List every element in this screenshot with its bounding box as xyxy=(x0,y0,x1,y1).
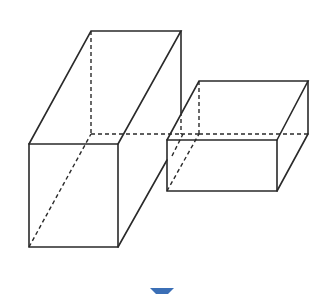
small-box-hidden-oblique xyxy=(167,134,199,191)
big-box-top-face xyxy=(29,31,181,144)
small-box-front-face xyxy=(167,140,277,191)
small-box-bottom-right-edge xyxy=(277,134,308,191)
marker-triangle-icon xyxy=(150,288,174,294)
prism-diagram xyxy=(0,0,335,294)
small-box-top-face xyxy=(167,81,308,140)
big-box-bottom-right-edge xyxy=(118,160,167,247)
small-box-hidden-oblique-2 xyxy=(172,134,183,156)
big-box-hidden-oblique xyxy=(29,134,91,247)
big-box-front-face xyxy=(29,144,118,247)
small-box xyxy=(167,81,308,191)
big-box xyxy=(29,31,181,247)
